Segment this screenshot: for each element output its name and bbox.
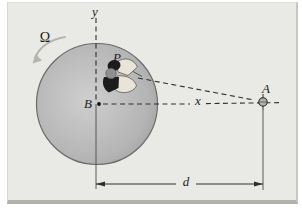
distance-label: d	[183, 175, 190, 188]
person-point-label: P	[113, 51, 121, 64]
target-point-label: A	[262, 82, 270, 95]
target-marker-icon	[259, 94, 267, 110]
y-axis-label: y	[92, 5, 98, 18]
dimension-line	[96, 182, 263, 187]
x-axis-line-extension	[206, 103, 280, 104]
dimension-arrow-left	[96, 182, 105, 187]
dimension-arrow-right	[254, 182, 263, 187]
figure-canvas: Ω y x B P A d	[0, 0, 302, 213]
center-point-dot	[97, 102, 101, 106]
center-point-label: B	[84, 97, 92, 110]
x-axis-label: x	[195, 94, 201, 107]
person-head	[106, 68, 117, 79]
rotation-label: Ω	[40, 31, 50, 45]
